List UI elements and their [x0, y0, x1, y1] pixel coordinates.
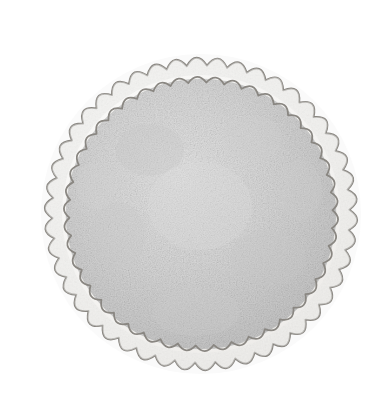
pie-illustration: pie A round pie seen from directly above… — [0, 0, 390, 418]
illustration-canvas: pie A round pie seen from directly above… — [0, 0, 390, 418]
